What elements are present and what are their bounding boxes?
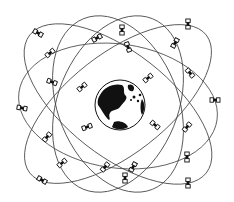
satellite-icon (120, 25, 124, 35)
satellite-icon (150, 120, 160, 130)
earth-globe (95, 80, 145, 130)
island (137, 100, 139, 102)
satellite-icon (185, 68, 195, 78)
satellite-icon (129, 162, 138, 173)
satellite-icon (123, 173, 127, 183)
satellite-icon (82, 123, 93, 131)
satellite-icon (100, 162, 110, 172)
satellite-icon (57, 158, 67, 168)
satellite-icon (92, 34, 103, 43)
satellite-icon (77, 82, 87, 92)
island (130, 99, 132, 101)
satellite-icon (37, 176, 48, 185)
island (139, 94, 142, 97)
satellite-icon (33, 29, 44, 38)
satellite-icon (47, 78, 58, 86)
satellite-icon (45, 48, 55, 58)
gps-constellation-diagram (0, 0, 234, 202)
satellite-icon (186, 19, 190, 29)
satellite-icon (17, 105, 28, 111)
satellite-icon (124, 42, 132, 53)
satellite-icon (143, 73, 153, 83)
island (133, 96, 136, 99)
satellite-icon (42, 132, 52, 142)
satellite-icon (185, 152, 189, 162)
diagram-canvas (0, 0, 234, 202)
